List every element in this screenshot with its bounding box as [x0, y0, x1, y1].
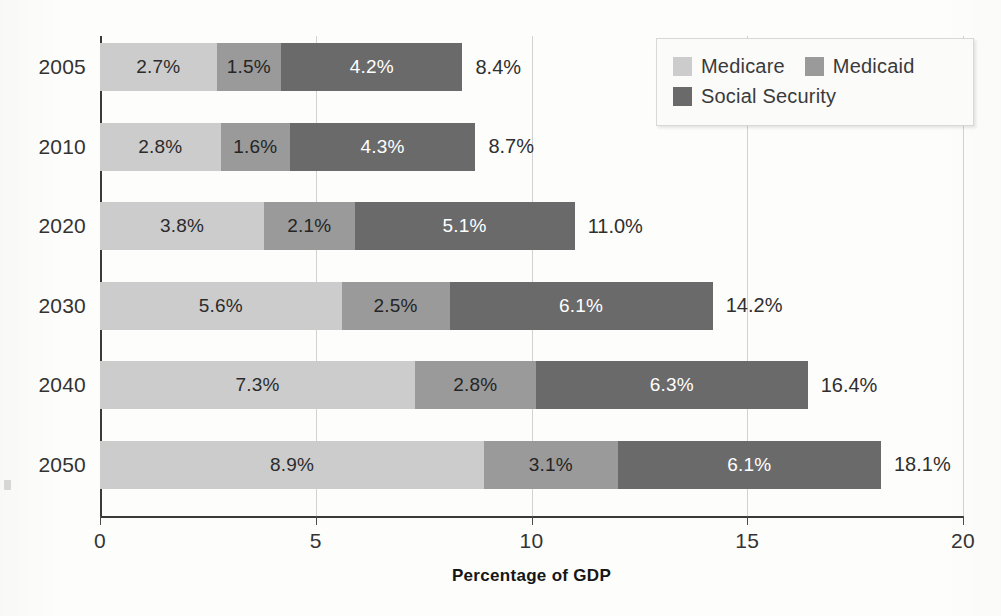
- chart-legend: Medicare Medicaid Social Security: [656, 38, 974, 126]
- x-axis-title: Percentage of GDP: [100, 566, 963, 586]
- bar-segment-value-label: 2.1%: [287, 215, 331, 237]
- bar-segment-value-label: 2.5%: [374, 295, 418, 317]
- legend-label-medicare: Medicare: [701, 55, 785, 78]
- x-axis-tick-label: 20: [951, 529, 975, 553]
- bar-segment-medicare[interactable]: 2.8%: [100, 123, 221, 171]
- x-axis-tick-label: 5: [310, 529, 322, 553]
- bar-segment-value-label: 4.2%: [350, 56, 394, 78]
- bar-segment-value-label: 4.3%: [361, 136, 405, 158]
- bar-segment-value-label: 1.5%: [227, 56, 271, 78]
- x-axis-tick: [316, 516, 317, 525]
- bar-segment-value-label: 2.8%: [453, 374, 497, 396]
- bar-segment-value-label: 2.8%: [138, 136, 182, 158]
- legend-swatch-social-security-icon: [673, 87, 692, 106]
- bar-segment-social_security[interactable]: 6.3%: [536, 361, 808, 409]
- y-axis-category-label: 2005: [8, 43, 86, 91]
- bar-segment-value-label: 6.1%: [727, 454, 771, 476]
- bar-total-label: 11.0%: [575, 202, 643, 250]
- bar-segment-medicaid[interactable]: 2.1%: [264, 202, 355, 250]
- bar-segment-medicare[interactable]: 8.9%: [100, 441, 484, 489]
- bar-group: 20508.9%3.1%6.1%18.1%: [100, 441, 963, 489]
- x-axis-tick-label: 15: [735, 529, 759, 553]
- bar-group: 20102.8%1.6%4.3%8.7%: [100, 123, 963, 171]
- bar-segment-value-label: 7.3%: [235, 374, 279, 396]
- x-axis-tick-label: 10: [520, 529, 544, 553]
- bar-segment-medicaid[interactable]: 2.5%: [342, 282, 450, 330]
- bar-segment-medicare[interactable]: 2.7%: [100, 43, 217, 91]
- bar-total-label: 14.2%: [713, 282, 783, 330]
- bar-segment-social_security[interactable]: 5.1%: [355, 202, 575, 250]
- x-axis-tick: [532, 516, 533, 525]
- bar-group: 20407.3%2.8%6.3%16.4%: [100, 361, 963, 409]
- bar-segment-value-label: 3.8%: [160, 215, 204, 237]
- bar-segment-medicare[interactable]: 3.8%: [100, 202, 264, 250]
- bar-segment-social_security[interactable]: 4.3%: [290, 123, 476, 171]
- legend-entry-medicaid[interactable]: Medicaid: [805, 55, 915, 78]
- bar-segment-social_security[interactable]: 6.1%: [618, 441, 881, 489]
- bar-segment-medicare[interactable]: 5.6%: [100, 282, 342, 330]
- legend-entry-social-security[interactable]: Social Security: [673, 85, 836, 108]
- y-axis-category-label: 2050: [8, 441, 86, 489]
- legend-label-social-security: Social Security: [701, 85, 836, 108]
- legend-swatch-medicaid-icon: [805, 57, 824, 76]
- chart-figure: 0510152020052.7%1.5%4.2%8.4%20102.8%1.6%…: [0, 0, 1001, 616]
- x-axis-tick: [747, 516, 748, 525]
- bar-segment-value-label: 3.1%: [529, 454, 573, 476]
- bar-segment-value-label: 5.6%: [199, 295, 243, 317]
- legend-label-medicaid: Medicaid: [833, 55, 915, 78]
- bar-total-label: 18.1%: [881, 441, 951, 489]
- y-axis-category-label: 2020: [8, 202, 86, 250]
- y-axis-category-label: 2010: [8, 123, 86, 171]
- bar-segment-social_security[interactable]: 4.2%: [281, 43, 462, 91]
- legend-row-2: Social Security: [673, 81, 959, 111]
- bar-group: 20203.8%2.1%5.1%11.0%: [100, 202, 963, 250]
- bar-segment-value-label: 1.6%: [233, 136, 277, 158]
- legend-row-1: Medicare Medicaid: [673, 51, 959, 81]
- bar-segment-medicare[interactable]: 7.3%: [100, 361, 415, 409]
- bar-total-label: 8.4%: [462, 43, 521, 91]
- bar-segment-medicaid[interactable]: 3.1%: [484, 441, 618, 489]
- bar-segment-medicaid[interactable]: 1.6%: [221, 123, 290, 171]
- y-axis-category-label: 2030: [8, 282, 86, 330]
- bar-segment-value-label: 6.1%: [559, 295, 603, 317]
- bar-segment-value-label: 8.9%: [270, 454, 314, 476]
- bar-group: 20305.6%2.5%6.1%14.2%: [100, 282, 963, 330]
- x-axis-tick-label: 0: [94, 529, 106, 553]
- bar-segment-value-label: 2.7%: [136, 56, 180, 78]
- legend-entry-medicare[interactable]: Medicare: [673, 55, 785, 78]
- bar-total-label: 16.4%: [808, 361, 878, 409]
- bar-segment-medicaid[interactable]: 1.5%: [217, 43, 282, 91]
- legend-swatch-medicare-icon: [673, 57, 692, 76]
- bar-segment-medicaid[interactable]: 2.8%: [415, 361, 536, 409]
- x-axis-tick: [963, 516, 964, 525]
- bar-total-label: 8.7%: [475, 123, 534, 171]
- x-axis-tick: [100, 516, 101, 525]
- bar-segment-social_security[interactable]: 6.1%: [450, 282, 713, 330]
- bar-segment-value-label: 6.3%: [650, 374, 694, 396]
- y-axis-category-label: 2040: [8, 361, 86, 409]
- bar-segment-value-label: 5.1%: [443, 215, 487, 237]
